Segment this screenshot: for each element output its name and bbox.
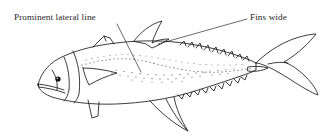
eye-highlight-icon — [57, 78, 58, 79]
scale-speckles — [111, 68, 234, 82]
operculum-crease — [64, 57, 69, 101]
annotation-label-lateral-line: Prominent lateral line — [14, 12, 96, 23]
second-dorsal-fin — [134, 21, 169, 48]
first-dorsal-fin — [93, 36, 114, 47]
pectoral-fin — [83, 68, 117, 85]
gill-cover — [73, 51, 80, 103]
pelvic-fin — [88, 100, 99, 118]
annotation-leaders — [117, 19, 247, 72]
lateral-line-upper-stipple — [86, 54, 243, 65]
caudal-fin — [256, 34, 318, 95]
caudal-fin-fork-crease — [268, 62, 288, 64]
leader-line-lateral-line — [117, 24, 141, 72]
anal-finlets — [178, 75, 247, 99]
fish-diagram-figure: Prominent lateral line Fins wide — [0, 0, 321, 136]
annotation-label-fins-wide: Fins wide — [250, 12, 287, 23]
dorsal-finlets — [180, 41, 249, 61]
caudal-peduncle-keel — [248, 66, 268, 71]
leader-line-fins-wide — [158, 19, 247, 44]
anal-fin — [150, 97, 188, 131]
eye-icon — [55, 76, 60, 81]
